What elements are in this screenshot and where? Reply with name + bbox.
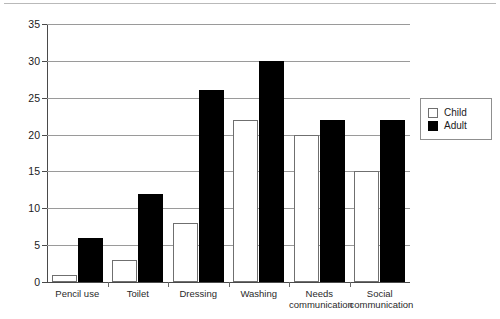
y-tick-label: 10 xyxy=(2,202,40,214)
category-label: Dressing xyxy=(168,288,229,299)
y-tick-label: 20 xyxy=(2,129,40,141)
bar-adult xyxy=(199,90,224,282)
bar-group xyxy=(168,24,229,282)
y-axis-tick-labels: 05101520253035 xyxy=(0,0,40,319)
legend-item-child: Child xyxy=(428,107,484,118)
bar-group xyxy=(47,24,108,282)
y-tick-label: 25 xyxy=(2,92,40,104)
bar-adult xyxy=(320,120,345,282)
bar-group xyxy=(108,24,169,282)
bar-adult xyxy=(380,120,405,282)
y-tick-label: 0 xyxy=(2,276,40,288)
bar-adult xyxy=(259,61,284,282)
bar-child xyxy=(173,223,198,282)
legend-label-child: Child xyxy=(444,107,467,118)
plot-area xyxy=(47,24,410,282)
bar-adult xyxy=(78,238,103,282)
y-tick-label: 30 xyxy=(2,55,40,67)
legend-swatch-adult-icon xyxy=(428,121,438,131)
bar-child xyxy=(233,120,258,282)
bar-child xyxy=(112,260,137,282)
bar-child xyxy=(294,135,319,282)
bar-group xyxy=(350,24,411,282)
chart-legend: Child Adult xyxy=(420,98,492,140)
top-border-rule xyxy=(4,3,496,4)
legend-swatch-child-icon xyxy=(428,108,438,118)
x-tick-mark xyxy=(289,282,290,287)
category-label: Washing xyxy=(229,288,290,299)
bar-chart-figure: 05101520253035 Pencil useToiletDressingW… xyxy=(0,0,500,319)
legend-item-adult: Adult xyxy=(428,120,484,131)
bar-adult xyxy=(138,194,163,282)
x-tick-mark xyxy=(229,282,230,287)
bar-child xyxy=(354,171,379,282)
bar-group xyxy=(289,24,350,282)
category-label: Toilet xyxy=(108,288,169,299)
bar-child xyxy=(52,275,77,282)
category-label: Pencil use xyxy=(47,288,108,299)
y-tick-label: 5 xyxy=(2,239,40,251)
y-tick-label: 35 xyxy=(2,18,40,30)
y-tick-label: 15 xyxy=(2,165,40,177)
x-tick-mark xyxy=(168,282,169,287)
x-tick-mark xyxy=(108,282,109,287)
category-label: Needscommunication xyxy=(289,288,350,310)
x-tick-mark xyxy=(350,282,351,287)
legend-label-adult: Adult xyxy=(444,120,467,131)
category-label: Socialcommunication xyxy=(350,288,411,310)
y-tick-mark xyxy=(42,282,47,283)
bar-group xyxy=(229,24,290,282)
